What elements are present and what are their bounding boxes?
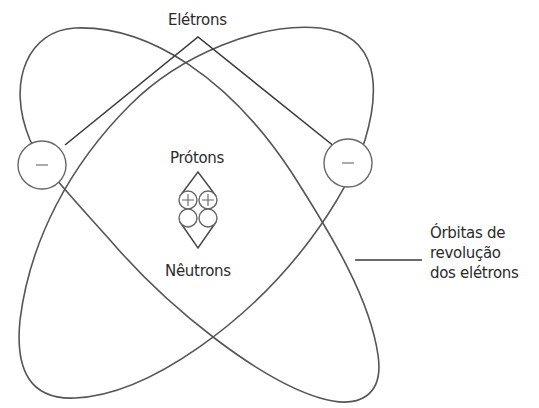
- orbits-label: Órbitas de revolução dos elétrons: [430, 223, 519, 283]
- protons-label: Prótons: [170, 148, 224, 168]
- orbits-label-line2: revolução: [430, 243, 519, 263]
- electron-right: [324, 139, 372, 187]
- neutrons-label: Nêutrons: [165, 261, 231, 281]
- orbit-b: [19, 27, 373, 398]
- neutron-left: [179, 209, 197, 227]
- nucleus: [179, 191, 217, 227]
- orbits-label-line1: Órbitas de: [430, 223, 519, 243]
- atom-diagram: [0, 0, 539, 408]
- neutron-right: [199, 209, 217, 227]
- electron-left: [18, 141, 66, 189]
- electrons-label: Elétrons: [168, 10, 227, 30]
- orbits-label-line3: dos elétrons: [430, 263, 519, 283]
